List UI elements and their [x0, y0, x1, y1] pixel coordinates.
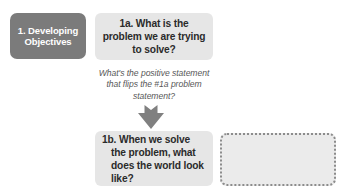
question-box-1b: 1b. When we solve the problem, what does… — [95, 131, 213, 186]
stage-label-box: 1. Developing Objectives — [10, 13, 86, 59]
down-arrow-icon — [136, 105, 166, 130]
stage-label-text: 1. Developing Objectives — [14, 25, 82, 48]
question-1b-text: 1b. When we solve the problem, what does… — [102, 133, 206, 185]
connector-prompt-text: What's the positive statement that flips… — [93, 68, 215, 102]
question-box-1a: 1a. What is the problem we are trying to… — [95, 13, 213, 60]
question-1a-text: 1a. What is the problem we are trying to… — [101, 17, 207, 56]
diagram-canvas: 1. Developing Objectives 1a. What is the… — [0, 0, 344, 193]
answer-placeholder-box[interactable] — [220, 133, 336, 186]
